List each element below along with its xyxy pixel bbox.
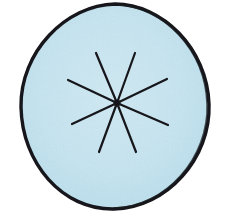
spoke-center-node [113, 100, 120, 106]
figure-canvas: Hand-drawn circle with eight radiating s… [0, 0, 230, 220]
circle-spokes-diagram [0, 0, 230, 220]
